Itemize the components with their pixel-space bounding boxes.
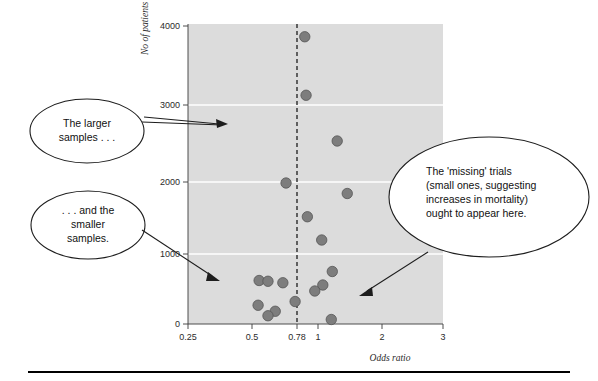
callout-line-missing-3: increases in mortality)	[426, 193, 528, 205]
data-point	[317, 235, 327, 245]
data-point	[310, 286, 320, 296]
y-axis: 4000 3000 2000 1000 0 No of patients	[140, 1, 188, 329]
data-point	[301, 90, 311, 100]
data-point	[342, 188, 352, 198]
callout-line-missing-4: ought to appear here.	[426, 207, 526, 219]
x-tick-label-3: 3	[440, 332, 445, 342]
data-point	[302, 212, 312, 222]
chart-canvas: 4000 3000 2000 1000 0 No of patients 0.2…	[0, 0, 598, 381]
data-point	[300, 32, 310, 42]
data-point	[278, 278, 288, 288]
callout-line-smaller-2: smaller	[71, 218, 105, 230]
x-axis: 0.25 0.5 0.78 1 2 3 Odds ratio	[179, 324, 445, 363]
y-tick-label-3000: 3000	[160, 100, 180, 110]
data-point	[263, 276, 273, 286]
data-point	[281, 178, 291, 188]
x-tick-label-1: 1	[315, 332, 320, 342]
callout-line-larger-1: The larger	[63, 117, 111, 129]
callout-line-smaller-3: samples.	[67, 232, 109, 244]
callout-line-missing-1: The 'missing' trials	[426, 165, 512, 177]
data-point	[332, 136, 342, 146]
y-tick-label-0: 0	[175, 319, 180, 329]
callout-line-larger-2: samples . . .	[59, 131, 116, 143]
y-axis-title: No of patients	[140, 1, 150, 56]
data-point	[326, 314, 336, 324]
data-point	[327, 266, 337, 276]
funnel-plot-figure: 4000 3000 2000 1000 0 No of patients 0.2…	[0, 0, 598, 381]
callout-line-smaller-1: . . . and the	[62, 204, 115, 216]
x-tick-label-078: 0.78	[288, 332, 306, 342]
data-point	[263, 311, 273, 321]
y-tick-label-4000: 4000	[160, 21, 180, 31]
x-tick-label-2: 2	[379, 332, 384, 342]
x-tick-label-05: 0.5	[246, 332, 259, 342]
y-tick-label-1000: 1000	[160, 249, 180, 259]
callout-line-missing-2: (small ones, suggesting	[426, 179, 536, 191]
x-tick-label-025: 0.25	[179, 332, 197, 342]
x-axis-title: Odds ratio	[370, 353, 411, 363]
data-point	[253, 300, 263, 310]
data-point	[290, 296, 300, 306]
y-tick-label-2000: 2000	[160, 177, 180, 187]
